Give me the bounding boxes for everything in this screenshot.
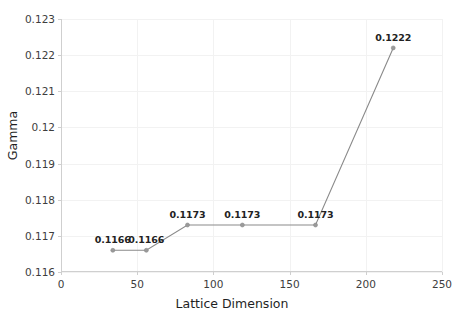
- data-point-label: 0.1173: [224, 209, 260, 220]
- y-tick-mark: [58, 272, 61, 273]
- data-point-label: 0.1166: [95, 234, 131, 245]
- x-tick-mark: [442, 272, 443, 275]
- data-point-label: 0.1173: [297, 209, 333, 220]
- y-tick-label: 0.119: [25, 158, 55, 170]
- x-tick-mark: [213, 272, 214, 275]
- x-tick-mark: [61, 272, 62, 275]
- y-tick-mark: [58, 91, 61, 92]
- y-tick-mark: [58, 127, 61, 128]
- series-markers-gamma: [111, 46, 395, 252]
- chart-figure: 0.11660.11660.11730.11730.11730.1222 050…: [0, 0, 464, 321]
- x-tick-mark: [366, 272, 367, 275]
- data-point-marker: [144, 248, 148, 252]
- y-tick-label: 0.118: [25, 194, 55, 206]
- x-tick-label: 150: [280, 278, 300, 290]
- data-point-marker: [391, 46, 395, 50]
- y-axis-title: Gamma: [5, 76, 20, 196]
- data-point-label: 0.1173: [169, 209, 205, 220]
- y-tick-mark: [58, 55, 61, 56]
- data-point-marker: [185, 223, 189, 227]
- x-tick-mark: [137, 272, 138, 275]
- x-tick-label: 0: [58, 278, 65, 290]
- y-tick-label: 0.12: [32, 121, 55, 133]
- x-tick-mark: [290, 272, 291, 275]
- data-point-marker: [240, 223, 244, 227]
- y-tick-label: 0.117: [25, 230, 55, 242]
- data-point-label: 0.1166: [128, 234, 164, 245]
- data-point-marker: [111, 248, 115, 252]
- data-point-label: 0.1222: [375, 32, 411, 43]
- x-tick-label: 100: [203, 278, 223, 290]
- y-tick-mark: [58, 19, 61, 20]
- y-tick-label: 0.121: [25, 85, 55, 97]
- y-tick-mark: [58, 236, 61, 237]
- plot-area: 0.11660.11660.11730.11730.11730.1222: [61, 19, 442, 272]
- y-tick-label: 0.123: [25, 13, 55, 25]
- data-point-marker: [314, 223, 318, 227]
- gridline-horizontal: [61, 272, 442, 273]
- x-tick-label: 200: [356, 278, 376, 290]
- y-tick-label: 0.116: [25, 266, 55, 278]
- y-tick-mark: [58, 164, 61, 165]
- gridline-vertical: [442, 19, 443, 272]
- y-tick-label: 0.122: [25, 49, 55, 61]
- y-tick-mark: [58, 200, 61, 201]
- x-tick-label: 250: [432, 278, 452, 290]
- x-tick-label: 50: [131, 278, 144, 290]
- x-axis-title: Lattice Dimension: [0, 296, 464, 311]
